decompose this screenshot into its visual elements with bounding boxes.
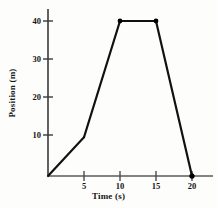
x-tick-label-20: 20: [181, 181, 203, 191]
x-axis-title: Time (s): [0, 191, 217, 201]
data-point-20s: [189, 173, 194, 178]
y-tick-label-40: 40: [19, 16, 41, 26]
data-point-markers: [83, 19, 194, 179]
y-tick-label-30: 30: [19, 54, 41, 64]
data-point-0s: [83, 136, 85, 138]
x-tick-label-5: 5: [73, 181, 95, 191]
y-axis-title: Position (m): [7, 53, 17, 133]
x-tick-label-15: 15: [145, 181, 167, 191]
y-tick-label-10: 10: [19, 130, 41, 140]
x-tick-label-10: 10: [109, 181, 131, 191]
position-data-line: [48, 21, 192, 176]
data-point-5s: [118, 19, 123, 24]
y-tick-label-20: 20: [19, 92, 41, 102]
position-time-chart: Position (m) Time (s) 40 30 20 10 5 10 1…: [0, 0, 217, 208]
data-point-10s: [154, 19, 159, 24]
chart-plot-area: [0, 0, 217, 208]
